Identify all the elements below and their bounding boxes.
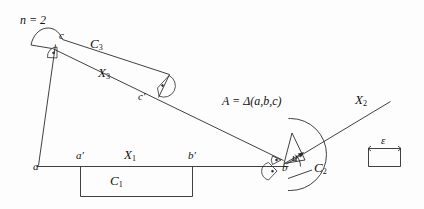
label-set-C3-text: C bbox=[90, 36, 99, 51]
right-angle-dot-b-lower bbox=[272, 170, 274, 172]
right-angle-dot-b-upper bbox=[276, 159, 278, 161]
figure-canvas: n = 2 c C3 X3 c′ A = Δ(a,b,c) X2 a a′ X1… bbox=[0, 0, 424, 209]
label-vertex-c-prime: c′ bbox=[138, 91, 145, 102]
label-angle-u-text: u bbox=[292, 151, 298, 163]
label-set-C2: C2 bbox=[314, 161, 327, 176]
right-angle-dot-c bbox=[53, 52, 55, 54]
C3-rounded-cap bbox=[31, 28, 63, 48]
label-set-C1-sub: 1 bbox=[119, 180, 123, 189]
label-seg-X3: X3 bbox=[98, 66, 110, 81]
epsilon-scale-bar-icon bbox=[368, 146, 401, 167]
right-angle-dot-cp bbox=[162, 85, 164, 87]
label-seg-X3-text: X bbox=[98, 65, 106, 80]
label-vertex-c: c bbox=[59, 30, 64, 41]
right-angle-dot-icon-c bbox=[47, 47, 57, 58]
label-seg-X2-sub: 2 bbox=[363, 99, 367, 108]
shape-C2 bbox=[284, 119, 326, 191]
label-area-formula: A = Δ(a,b,c) bbox=[222, 95, 282, 107]
label-vertex-b-prime-text: b′ bbox=[188, 149, 196, 161]
label-set-C3-sub: 3 bbox=[99, 43, 103, 52]
right-angle-dot-icon-b-lower bbox=[262, 163, 277, 181]
label-seg-X1: X1 bbox=[124, 148, 136, 163]
label-n-equals: n = 2 bbox=[20, 14, 46, 26]
label-vertex-b: b bbox=[282, 162, 288, 173]
label-seg-X1-sub: 1 bbox=[132, 154, 136, 163]
label-vertex-c-text: c bbox=[59, 29, 64, 41]
label-vertex-c-prime-text: c′ bbox=[138, 90, 145, 102]
C2-leader-line bbox=[288, 170, 312, 179]
label-vertex-a-text: a bbox=[33, 160, 39, 172]
label-vertex-a-prime: a′ bbox=[76, 150, 84, 161]
label-seg-X3-sub: 3 bbox=[106, 72, 110, 81]
triangle-lines bbox=[37, 45, 391, 167]
label-set-C3: C3 bbox=[90, 37, 103, 52]
label-vertex-b-prime: b′ bbox=[188, 150, 196, 161]
label-seg-X1-text: X bbox=[124, 147, 132, 162]
label-set-C1: C1 bbox=[110, 174, 123, 189]
label-set-C1-text: C bbox=[110, 173, 119, 188]
C3-top-edge bbox=[63, 40, 170, 75]
C3-far-end-edge bbox=[159, 75, 170, 98]
edge-a-to-c bbox=[39, 45, 56, 166]
label-vertex-b-text: b bbox=[282, 161, 288, 173]
label-set-C2-text: C bbox=[314, 160, 323, 175]
label-angle-u: u bbox=[292, 152, 298, 163]
label-vertex-a: a bbox=[33, 161, 39, 172]
label-seg-X2: X2 bbox=[355, 93, 367, 108]
label-epsilon: ε bbox=[381, 135, 385, 146]
shape-C1 bbox=[81, 167, 193, 197]
label-set-C2-sub: 2 bbox=[323, 167, 327, 176]
label-seg-X2-text: X bbox=[355, 92, 363, 107]
label-vertex-a-prime-text: a′ bbox=[76, 149, 84, 161]
